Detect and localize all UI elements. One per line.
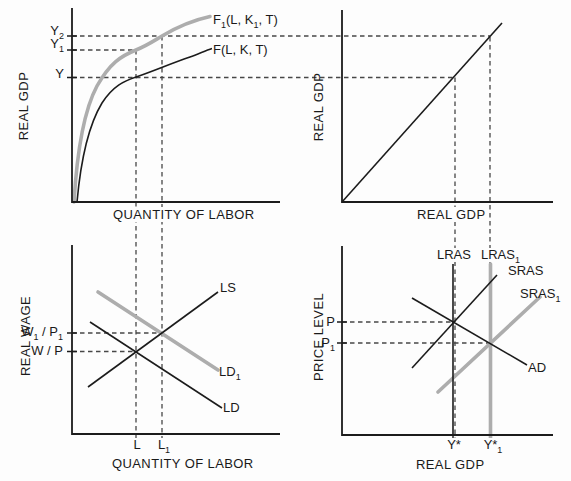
- adas-x-axis-title: REAL GDP: [416, 457, 484, 472]
- production-panel-axes: [72, 8, 280, 202]
- ls-labor-supply-curve: [88, 292, 218, 387]
- f-production-curve: [77, 49, 212, 203]
- y1-axis-label: Y1: [30, 37, 64, 51]
- f1-production-curve: [74, 17, 210, 203]
- four-panel-macro-diagram: Y2 Y1 Y F1(L, K1, T) F(L, K, T) REAL GDP…: [0, 0, 571, 481]
- production-y-axis-title: REAL GDP: [16, 72, 31, 140]
- shifted-gray-curves: [74, 17, 540, 440]
- lras1-curve-label: LRAS1: [480, 248, 521, 262]
- l1-axis-label: L1: [152, 438, 176, 452]
- dashed-guides: [72, 36, 490, 440]
- forty-five-degree-line: [342, 23, 502, 202]
- ad-curve-label: AD: [528, 361, 546, 375]
- l-axis-label: L: [126, 438, 148, 452]
- ystar1-axis-label: Y*1: [480, 438, 506, 452]
- ls-curve-label: LS: [220, 281, 236, 295]
- sras1-curve-label: SRAS1: [520, 287, 560, 301]
- labor-x-axis-title: QUANTITY OF LABOR: [112, 456, 254, 471]
- adas-y-axis-title: PRICE LEVEL: [311, 293, 326, 381]
- diagram-canvas: [0, 0, 571, 481]
- tick-marks: [67, 36, 453, 440]
- ld1-curve-label: LD1: [219, 365, 241, 379]
- y-axis-label: Y: [30, 67, 64, 81]
- wp-axis-label: W / P: [8, 344, 63, 358]
- f-curve-label: F(L, K, T): [213, 43, 268, 57]
- forty-five-y-axis-title: REAL GDP: [311, 73, 326, 141]
- ld-curve-label: LD: [223, 401, 240, 415]
- labor-panel-axes: [72, 245, 280, 434]
- labor-y-axis-title: REAL WAGE: [18, 296, 33, 376]
- lras-curve-label: LRAS: [436, 248, 472, 262]
- ld-labor-demand-curve: [90, 322, 222, 408]
- w1p1-axis-label: W1 / P1: [8, 325, 63, 339]
- ystar-axis-label: Y*: [443, 438, 465, 452]
- f1-curve-label: F1(L, K1, T): [213, 13, 278, 27]
- ad-curve: [412, 298, 527, 365]
- forty-five-panel-axes: [342, 10, 553, 202]
- forty-five-x-axis-title: REAL GDP: [416, 207, 486, 222]
- sras-curve-label: SRAS: [508, 264, 543, 278]
- ld1-labor-demand-curve: [98, 292, 218, 370]
- production-x-axis-title: QUANTITY OF LABOR: [112, 207, 256, 222]
